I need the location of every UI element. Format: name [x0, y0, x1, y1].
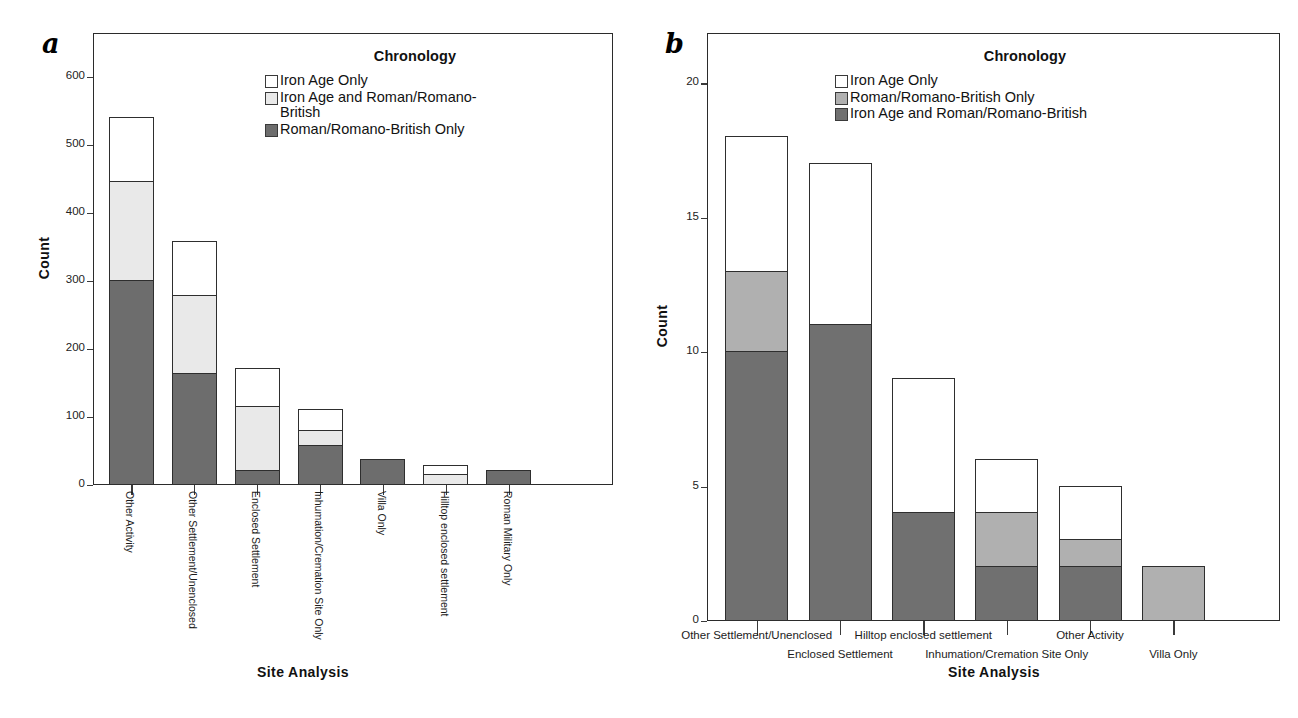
- panel-a-bar-3-segment-0: [298, 445, 343, 485]
- panel-a-bar-1-segment-1: [172, 295, 217, 374]
- panel-a-y-tick-label-5: 500: [47, 137, 85, 149]
- panel-a-x-tick-label-4: Villa Only: [376, 491, 388, 535]
- panel-b-x-axis-title: Site Analysis: [884, 664, 1104, 680]
- panel-b-bar-4: [1059, 43, 1122, 621]
- panel-a-bar-4-segment-0: [360, 459, 405, 485]
- panel-b-y-tick-label-3: 15: [661, 210, 699, 222]
- panel-b-bar-0: [725, 43, 788, 621]
- panel-b-y-tick-mark-0: [701, 621, 707, 622]
- panel-a-legend-label-0: Iron Age Only: [280, 73, 368, 89]
- panel-b-bar-5-segment-1: [1142, 566, 1205, 621]
- panel-a-x-tick-label-5: Hilltop enclosed settlement: [439, 491, 451, 616]
- panel-a-y-tick-label-6: 600: [47, 69, 85, 81]
- panel-a-x-tick-label-3: Inhumation/Cremation Site Only: [313, 491, 325, 640]
- panel-a-y-tick-mark-1: [87, 417, 93, 418]
- panel-a-x-tick-label-1: Other Settlement/Unenclosed: [187, 491, 199, 629]
- panel-b-y-tick-mark-3: [701, 218, 707, 219]
- panel-a-x-tick-label-6: Roman Military Only: [502, 491, 514, 586]
- panel-b-bar-4-segment-2: [1059, 486, 1122, 541]
- panel-a-y-axis-title: Count: [36, 213, 52, 303]
- panel-b-bar-3-segment-0: [975, 566, 1038, 621]
- panel-a-legend-swatch-1: [265, 92, 278, 105]
- panel-b-bar-0-segment-1: [725, 271, 788, 353]
- panel-a-y-tick-mark-4: [87, 213, 93, 214]
- panel-b-legend-swatch-0: [835, 75, 848, 88]
- panel-b-y-tick-mark-4: [701, 83, 707, 84]
- panel-a-y-tick-label-3: 300: [47, 273, 85, 285]
- panel-b-legend-item-2: Iron Age and Roman/Romano-British: [835, 106, 1215, 122]
- panel-a-y-tick-mark-0: [87, 485, 93, 486]
- panel-b-bar-2: [892, 43, 955, 621]
- panel-b-bar-2-segment-2: [892, 378, 955, 513]
- panel-a-bar-5-segment-2: [423, 465, 468, 476]
- panel-a-bar-2-segment-0: [235, 470, 280, 485]
- panel-a-bar-2-segment-1: [235, 406, 280, 471]
- panel-a-legend-label-2: Roman/Romano-British Only: [280, 122, 465, 138]
- panel-a-y-tick-mark-2: [87, 349, 93, 350]
- panel-a-legend: Chronology Iron Age OnlyIron Age and Rom…: [265, 48, 565, 138]
- panel-b-bar-0-segment-0: [725, 351, 788, 621]
- panel-a-legend-title: Chronology: [265, 48, 565, 64]
- panel-a-y-tick-mark-6: [87, 77, 93, 78]
- panel-a-bar-0-segment-2: [109, 117, 154, 183]
- panel-b-legend-item-1: Roman/Romano-British Only: [835, 90, 1215, 106]
- panel-a-y-tick-label-0: 0: [47, 477, 85, 489]
- panel-a-legend-swatch-0: [265, 75, 278, 88]
- panel-a-y-tick-mark-3: [87, 281, 93, 282]
- panel-a-legend-swatch-2: [265, 124, 278, 137]
- panel-a-bar-6-segment-0: [486, 470, 531, 485]
- panel-a-bar-0: [109, 43, 154, 485]
- panel-b-legend-item-0: Iron Age Only: [835, 73, 1215, 89]
- panel-a-bar-5-segment-1: [423, 474, 468, 485]
- panel-b-legend-swatch-1: [835, 92, 848, 105]
- panel-b-x-tick-label-4: Other Activity: [990, 629, 1190, 641]
- panel-b-bar-3: [975, 43, 1038, 621]
- panel-b-legend-label-1: Roman/Romano-British Only: [850, 90, 1035, 106]
- panel-b-bar-2-segment-0: [892, 512, 955, 621]
- panel-b-legend-label-2: Iron Age and Roman/Romano-British: [850, 106, 1087, 122]
- panel-a-y-tick-label-4: 400: [47, 205, 85, 217]
- panel-a-x-tick-label-2: Enclosed Settlement: [250, 491, 262, 587]
- panel-a-legend-item-2: Roman/Romano-British Only: [265, 122, 565, 138]
- panel-a-bar-3-segment-2: [298, 409, 343, 431]
- panel-a-bar-1: [172, 43, 217, 485]
- panel-b-letter: b: [665, 28, 684, 59]
- panel-a-legend-item-0: Iron Age Only: [265, 73, 565, 89]
- panel-b-bar-5: [1142, 43, 1205, 621]
- panel-b-bar-4-segment-1: [1059, 539, 1122, 567]
- panel-b-legend-title: Chronology: [835, 48, 1215, 64]
- panel-b-bar-1-segment-0: [809, 324, 872, 621]
- panel-b-legend-swatch-2: [835, 108, 848, 121]
- panel-a-bar-1-segment-2: [172, 241, 217, 296]
- panel-b-bar-1: [809, 43, 872, 621]
- panel-b-bar-3-segment-1: [975, 512, 1038, 567]
- panel-b-y-tick-label-1: 5: [661, 479, 699, 491]
- panel-a-bar-0-segment-0: [109, 280, 154, 485]
- panel-a-legend-item-1: Iron Age and Roman/Romano- British: [265, 90, 565, 121]
- panel-a-legend-label-1: Iron Age and Roman/Romano- British: [280, 90, 477, 121]
- panel-b-bar-1-segment-2: [809, 163, 872, 325]
- panel-b-bar-0-segment-2: [725, 136, 788, 271]
- panel-b-legend: Chronology Iron Age OnlyRoman/Romano-Bri…: [835, 48, 1215, 123]
- panel-a-bar-0-segment-1: [109, 181, 154, 281]
- panel-b-y-tick-mark-2: [701, 352, 707, 353]
- panel-b-bar-4-segment-0: [1059, 566, 1122, 621]
- panel-a-bar-1-segment-0: [172, 373, 217, 485]
- panel-b-y-tick-label-4: 20: [661, 75, 699, 87]
- panel-b-y-tick-label-2: 10: [661, 344, 699, 356]
- panel-a-y-tick-label-2: 200: [47, 341, 85, 353]
- panel-b-y-tick-label-0: 0: [661, 613, 699, 625]
- panel-a-letter: a: [42, 28, 60, 59]
- panel-a-bar-2-segment-2: [235, 368, 280, 406]
- panel-b-legend-label-0: Iron Age Only: [850, 73, 938, 89]
- panel-a-bar-3-segment-1: [298, 430, 343, 445]
- panel-b-y-axis-title: Count: [654, 281, 670, 371]
- panel-b-x-tick-mark-5: [1173, 621, 1174, 635]
- panel-a-y-tick-label-1: 100: [47, 409, 85, 421]
- panel-b-x-tick-label-5: Villa Only: [1073, 648, 1273, 660]
- panel-b: b Count 05101520 Other Settlement/Unencl…: [640, 0, 1298, 718]
- panel-a-x-axis-title: Site Analysis: [193, 664, 413, 680]
- panel-a-x-tick-label-0: Other Activity: [124, 491, 136, 553]
- panel-a: a Count 0100200300400500600 Other Activi…: [0, 0, 640, 718]
- panel-a-y-tick-mark-5: [87, 145, 93, 146]
